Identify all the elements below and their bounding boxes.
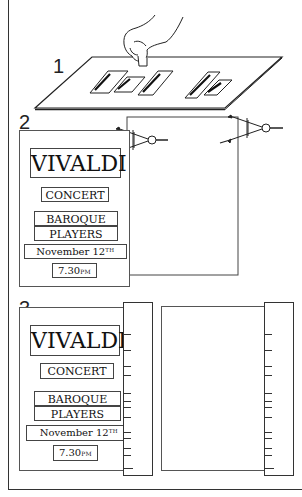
date-main: November 12: [40, 427, 109, 438]
poster-time: 7.30PM: [52, 263, 97, 278]
time-main: 7.30: [58, 265, 80, 276]
time-suffix: PM: [81, 450, 92, 457]
poster-title: VIVALDI: [30, 325, 120, 356]
date-main: November 12: [36, 246, 105, 257]
poster-line4: PLAYERS: [34, 226, 118, 241]
poster-title: VIVALDI: [30, 148, 121, 178]
poster-line3: BAROQUE: [34, 211, 118, 226]
date-suffix: TH: [109, 428, 118, 434]
time-main: 7.30: [59, 447, 81, 458]
poster-line4: PLAYERS: [34, 406, 121, 421]
poster-subtitle: CONCERT: [41, 187, 109, 202]
poster-step3: VIVALDI CONCERT BAROQUE PLAYERS November…: [19, 307, 133, 471]
time-suffix: PM: [80, 268, 91, 275]
ruler-strip-left: [123, 302, 153, 476]
blank-sheet-step3: [161, 306, 266, 471]
poster-subtitle: CONCERT: [40, 363, 114, 379]
poster-time: 7.30PM: [53, 445, 98, 461]
date-suffix: TH: [105, 247, 114, 253]
poster-line3: BAROQUE: [34, 391, 121, 406]
poster-step2: VIVALDI CONCERT BAROQUE PLAYERS November…: [19, 130, 130, 287]
poster-date: November 12TH: [24, 244, 127, 259]
poster-date: November 12TH: [26, 425, 132, 441]
ruler-strip-right: [264, 302, 294, 476]
step-2-label: 2: [19, 112, 30, 132]
blank-sheet-step2: [127, 117, 238, 275]
